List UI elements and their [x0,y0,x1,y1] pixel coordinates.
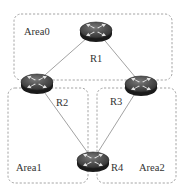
labels: Area0 Area1 Area2 R1 R2 R3 R4 [16,26,165,173]
links [37,30,141,160]
area0-label: Area0 [24,26,50,37]
area1-label: Area1 [16,162,42,173]
router-label-r3: R3 [110,96,122,107]
link-r2-r4 [37,82,93,160]
network-topology-diagram: Area0 Area1 Area2 R1 R2 R3 R4 [0,0,183,192]
router-icon-r3[interactable] [125,76,157,96]
router-icon-r2[interactable] [21,74,53,94]
routers [21,22,157,172]
router-label-r1: R1 [90,53,102,64]
router-icon-r4[interactable] [77,152,109,172]
router-label-r2: R2 [56,97,68,108]
area2-label: Area2 [139,162,165,173]
router-label-r4: R4 [111,162,124,173]
router-icon-r1[interactable] [80,22,112,42]
